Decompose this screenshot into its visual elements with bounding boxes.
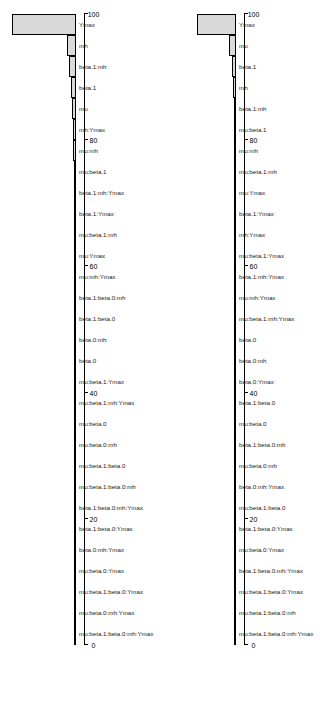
category-label: mu:beta.0 bbox=[78, 414, 160, 435]
category-label: mu:beta.1:beta.0:mh bbox=[78, 477, 160, 498]
bar-series-left bbox=[6, 14, 75, 645]
category-label-text: mu:beta.1:Ymax bbox=[79, 379, 124, 385]
bar-chart-panel-left: mu:beta.1:beta.0:mh:Ymaxmu:beta.0:mh:Yma… bbox=[0, 0, 160, 707]
category-label: mu:beta.1:beta.0:mh:Ymax bbox=[238, 624, 320, 645]
category-label: mu:beta.0 bbox=[238, 414, 320, 435]
bars-region-right bbox=[166, 14, 236, 645]
x-axis-left: 020406080100 bbox=[84, 14, 85, 645]
category-label-text: mu:beta.1:beta.0:mh:Ymax bbox=[79, 631, 153, 637]
axis-tick bbox=[244, 265, 248, 266]
category-label-text: mu:beta.1:beta.0:Ymax bbox=[239, 589, 303, 595]
axis-tick bbox=[244, 644, 248, 645]
category-label: mu:beta.1:mh bbox=[78, 224, 160, 245]
category-label: beta.1 bbox=[238, 56, 320, 77]
category-label-text: beta.1:beta.0:mh bbox=[79, 295, 125, 301]
category-label-text: mu:beta.1:Ymax bbox=[239, 253, 284, 259]
category-label-text: beta.1:beta.0:Ymax bbox=[239, 526, 293, 532]
category-label: beta.1:beta.0 bbox=[78, 309, 160, 330]
category-label-text: mu:mh bbox=[79, 148, 98, 154]
category-label-text: mu:beta.1:beta.0 bbox=[239, 505, 285, 511]
category-label: mu:mh:Ymax bbox=[238, 287, 320, 308]
category-label: mh bbox=[78, 35, 160, 56]
category-label-text: mh:Ymax bbox=[79, 127, 105, 133]
category-label-text: beta.0 bbox=[79, 358, 96, 364]
figure-canvas: mu:beta.1:beta.0:mh:Ymaxmu:beta.0:mh:Yma… bbox=[0, 0, 320, 707]
category-label-text: beta.0:mh:Ymax bbox=[239, 484, 284, 490]
category-label-text: mu:beta.0:Ymax bbox=[239, 547, 284, 553]
category-label: mu:beta.0:mh bbox=[238, 456, 320, 477]
plot-area-left: mu:beta.1:beta.0:mh:Ymaxmu:beta.0:mh:Yma… bbox=[0, 0, 160, 707]
axis-tick bbox=[84, 644, 88, 645]
category-label: mu:beta.1:beta.0:Ymax bbox=[78, 582, 160, 603]
category-label: mh:Ymax bbox=[238, 224, 320, 245]
axis-tick bbox=[244, 139, 248, 140]
category-label: beta.1:beta.0:mh bbox=[238, 435, 320, 456]
baseline-right bbox=[235, 14, 236, 645]
category-label-text: mu:beta.0:mh:Ymax bbox=[79, 610, 134, 616]
axis-tick bbox=[84, 392, 88, 393]
category-label-text: mu:beta.1:beta.0 bbox=[79, 463, 125, 469]
category-label-text: mu:beta.0:Ymax bbox=[79, 568, 124, 574]
category-label-text: Ymax bbox=[239, 21, 255, 27]
category-label: beta.1:mh:Ymax bbox=[238, 266, 320, 287]
category-label: mu:beta.1:mh bbox=[238, 161, 320, 182]
axis-tick bbox=[244, 518, 248, 519]
axis-tick-label: 100 bbox=[88, 11, 100, 18]
category-label-text: beta.1:beta.0:mh:Ymax bbox=[239, 568, 303, 574]
category-label-text: beta.0 bbox=[239, 337, 256, 343]
axis-tick bbox=[84, 139, 88, 140]
axis-tick-label: 60 bbox=[250, 263, 258, 270]
bar-chart-panel-right: mu:beta.1:beta.0:mh:Ymaxmu:beta.1:beta.0… bbox=[160, 0, 320, 707]
category-label: mu:Ymax bbox=[238, 182, 320, 203]
category-label-text: Ymax bbox=[79, 21, 95, 27]
category-label-text: mu:beta.1:beta.0:mh bbox=[239, 610, 296, 616]
category-label: beta.1:beta.0:mh:Ymax bbox=[238, 561, 320, 582]
axis-tick-label: 40 bbox=[250, 389, 258, 396]
category-label: mu:beta.0:Ymax bbox=[78, 561, 160, 582]
category-label: mu:beta.1:beta.0:Ymax bbox=[238, 582, 320, 603]
axis-line-right bbox=[244, 14, 245, 645]
category-label: beta.0:mh bbox=[238, 351, 320, 372]
bar bbox=[67, 35, 75, 56]
category-label: beta.0:mh:Ymax bbox=[78, 540, 160, 561]
axis-tick-label: 100 bbox=[248, 11, 260, 18]
category-labels-right: mu:beta.1:beta.0:mh:Ymaxmu:beta.1:beta.0… bbox=[238, 14, 320, 645]
axis-tick-label: 80 bbox=[90, 137, 98, 144]
bar-series-right bbox=[166, 14, 235, 645]
plot-area-right: mu:beta.1:beta.0:mh:Ymaxmu:beta.1:beta.0… bbox=[160, 0, 320, 707]
category-label: beta.1:mh bbox=[78, 56, 160, 77]
category-label: mu:mh:Ymax bbox=[78, 266, 160, 287]
category-label-text: beta.1:beta.0:mh bbox=[239, 442, 285, 448]
x-axis-right: 020406080100 bbox=[244, 14, 245, 645]
bar bbox=[197, 14, 235, 35]
axis-tick bbox=[84, 518, 88, 519]
category-label: beta.0:mh bbox=[78, 330, 160, 351]
category-label-text: mu:beta.1:mh:Ymax bbox=[79, 400, 134, 406]
axis-tick-label: 20 bbox=[250, 515, 258, 522]
bars-region-left bbox=[6, 14, 76, 645]
category-label-text: beta.1:mh:Ymax bbox=[239, 274, 284, 280]
category-label-text: mu:beta.1:beta.0:mh:Ymax bbox=[239, 631, 313, 637]
category-label: mu:beta.0:mh bbox=[78, 435, 160, 456]
category-label: mu:beta.1:beta.0 bbox=[78, 456, 160, 477]
category-label: beta.1:Ymax bbox=[78, 203, 160, 224]
axis-line-left bbox=[84, 14, 85, 645]
category-label: mu:beta.1 bbox=[78, 161, 160, 182]
category-label-text: beta.0:mh:Ymax bbox=[79, 547, 124, 553]
category-label: beta.0:mh:Ymax bbox=[238, 477, 320, 498]
category-label-text: beta.1 bbox=[79, 85, 96, 91]
category-label: beta.1 bbox=[78, 77, 160, 98]
category-labels-left: mu:beta.1:beta.0:mh:Ymaxmu:beta.0:mh:Yma… bbox=[78, 14, 160, 645]
category-label-text: beta.1:mh:Ymax bbox=[79, 190, 124, 196]
category-label-text: mu:beta.1:mh:Ymax bbox=[239, 316, 294, 322]
category-label-text: mu:mh bbox=[239, 148, 258, 154]
category-label: beta.0 bbox=[78, 351, 160, 372]
category-label: beta.1:mh bbox=[238, 98, 320, 119]
category-label: mu:beta.0:mh:Ymax bbox=[78, 603, 160, 624]
axis-tick-label: 0 bbox=[92, 642, 96, 649]
category-label: mu:beta.1:mh:Ymax bbox=[238, 309, 320, 330]
category-label: mu bbox=[78, 98, 160, 119]
category-label: mu:beta.0:Ymax bbox=[238, 540, 320, 561]
category-label-text: beta.1 bbox=[239, 64, 256, 70]
bar bbox=[12, 14, 75, 35]
